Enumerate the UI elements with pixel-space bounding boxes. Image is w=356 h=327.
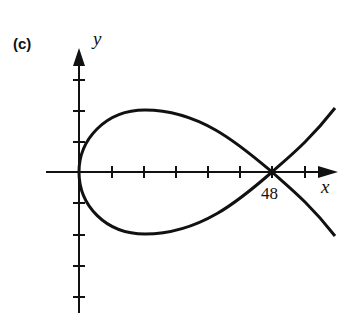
- y-axis-label: y: [91, 28, 102, 49]
- plot: y x 48: [0, 0, 356, 327]
- x-tick-label: 48: [261, 184, 278, 203]
- x-axis-label: x: [320, 176, 330, 197]
- y-axis-arrow-icon: [73, 48, 85, 66]
